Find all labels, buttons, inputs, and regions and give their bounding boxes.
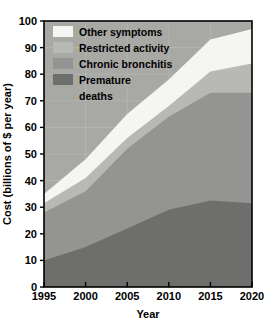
- legend-label: deaths: [79, 90, 113, 102]
- x-axis-tick-label: 1995: [32, 290, 56, 302]
- y-axis-title: Cost (billions of $ per year): [1, 83, 13, 225]
- y-axis-tick-label: 20: [25, 228, 37, 240]
- x-axis-tick-label: 2015: [198, 290, 222, 302]
- x-axis-tick-label: 2005: [115, 290, 139, 302]
- legend-swatch: [53, 74, 73, 85]
- y-axis-tick-label: 100: [19, 15, 37, 27]
- stacked-area-chart: 0102030405060708090100 19952000200520102…: [0, 0, 268, 330]
- x-axis-tick-label: 2000: [73, 290, 97, 302]
- x-axis-title: Year: [136, 308, 160, 320]
- x-axis-tick-label: 2020: [240, 290, 264, 302]
- y-axis-tick-label: 60: [25, 121, 37, 133]
- y-axis-tick-label: 70: [25, 95, 37, 107]
- y-axis-tick-label: 90: [25, 42, 37, 54]
- legend-label: Premature: [79, 74, 131, 86]
- y-axis-tick-label: 80: [25, 68, 37, 80]
- legend-swatch: [53, 26, 73, 37]
- legend-label: Other symptoms: [79, 26, 163, 38]
- x-axis-tick-label: 2010: [157, 290, 181, 302]
- legend-swatch: [53, 42, 73, 53]
- legend-label: Chronic bronchitis: [79, 58, 172, 70]
- y-axis-tick-label: 50: [25, 148, 37, 160]
- y-axis-tick-label: 40: [25, 175, 37, 187]
- y-axis-tick-label: 10: [25, 254, 37, 266]
- legend-label: Restricted activity: [79, 42, 170, 54]
- y-axis-tick-label: 30: [25, 201, 37, 213]
- chart-figure: 0102030405060708090100 19952000200520102…: [0, 0, 268, 330]
- legend-swatch: [53, 58, 73, 69]
